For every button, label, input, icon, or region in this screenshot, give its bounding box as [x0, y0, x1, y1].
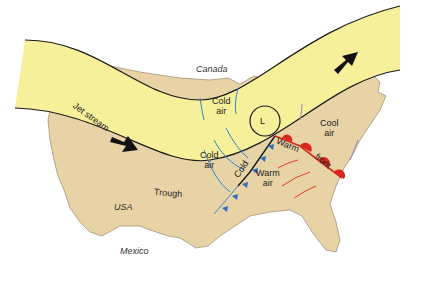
label-usa: USA	[114, 202, 133, 212]
label-cold-air-south: Coldair	[200, 150, 219, 170]
label-cool-air: Coolair	[320, 118, 339, 138]
weather-diagram: Canada USA Mexico Jet stream Trough L Co…	[0, 0, 428, 292]
label-canada: Canada	[196, 64, 228, 74]
label-cold-air-north: Coldair	[212, 96, 231, 116]
label-low: L	[260, 116, 265, 126]
label-mexico: Mexico	[120, 246, 149, 256]
label-warm-air: Warmair	[256, 168, 280, 188]
map-canvas	[0, 0, 428, 292]
